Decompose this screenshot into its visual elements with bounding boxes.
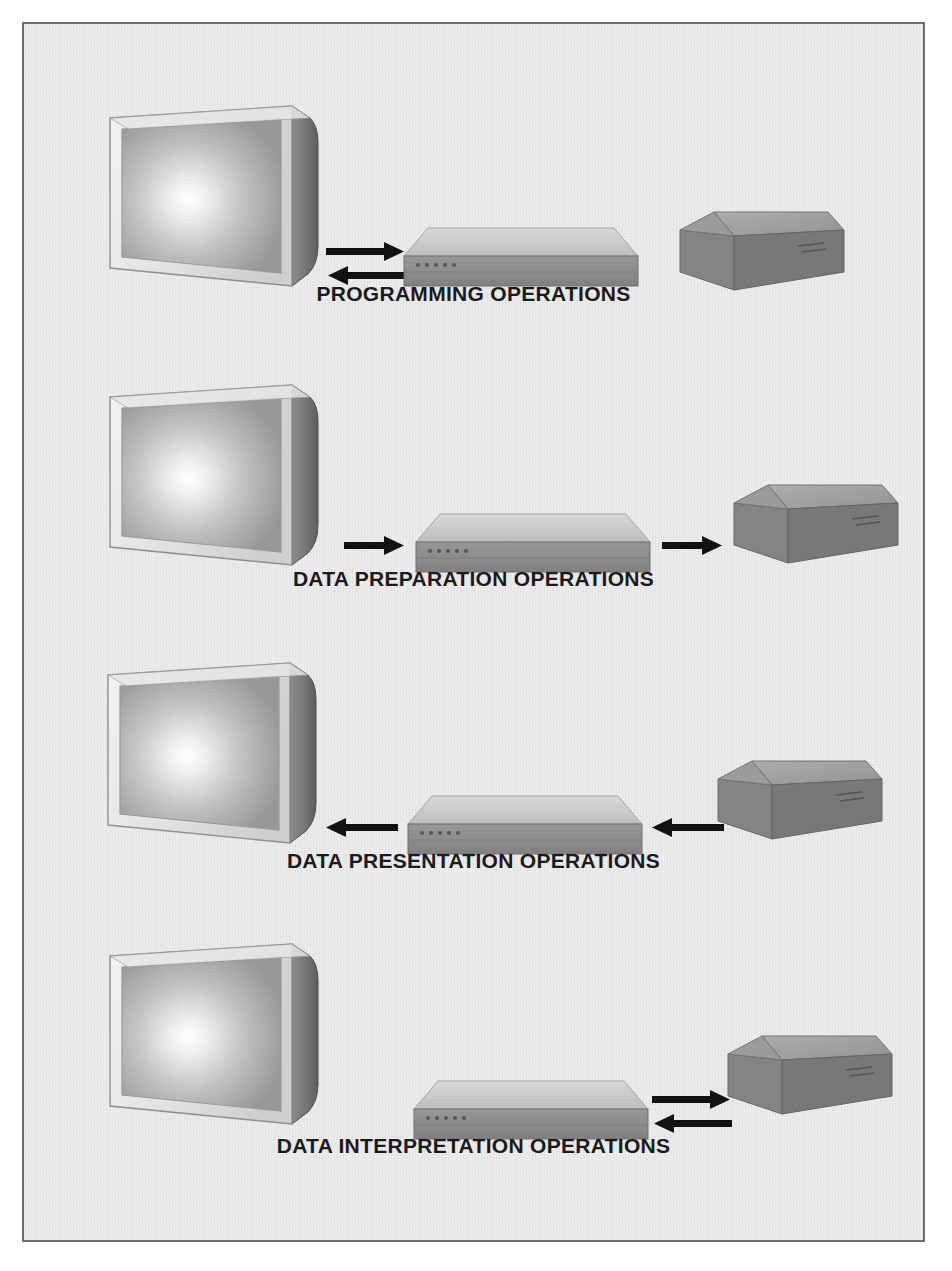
monitor-display bbox=[96, 375, 326, 575]
cpu-unit bbox=[402, 227, 640, 289]
arrow-cpu-to-monitor bbox=[324, 817, 398, 839]
arrow-pair-cpu-disk bbox=[650, 1087, 734, 1139]
arrow-monitor-to-cpu bbox=[344, 535, 406, 557]
monitor-display bbox=[96, 96, 326, 296]
monitor-display bbox=[96, 934, 326, 1134]
cpu-unit bbox=[414, 513, 652, 575]
row-label-data-preparation: DATA PREPARATION OPERATIONS bbox=[24, 567, 923, 591]
arrow-disk-to-cpu bbox=[650, 817, 724, 839]
arrow-cpu-to-disk bbox=[662, 535, 724, 557]
diagram-row-data-presentation: DATA PRESENTATION OPERATIONS bbox=[24, 599, 923, 889]
disk-storage bbox=[730, 479, 902, 579]
row-label-programming: PROGRAMMING OPERATIONS bbox=[24, 282, 923, 306]
operations-diagram-figure: PROGRAMMING OPERATIONS bbox=[22, 22, 925, 1242]
diagram-row-data-interpretation: DATA INTERPRETATION OPERATIONS bbox=[24, 882, 923, 1172]
cpu-unit bbox=[412, 1080, 650, 1142]
row-label-data-interpretation: DATA INTERPRETATION OPERATIONS bbox=[24, 1134, 923, 1158]
monitor-display bbox=[94, 653, 324, 853]
cpu-unit bbox=[406, 795, 644, 857]
row-label-data-presentation: DATA PRESENTATION OPERATIONS bbox=[24, 849, 923, 873]
disk-storage bbox=[714, 755, 886, 855]
diagram-row-data-preparation: DATA PREPARATION OPERATIONS bbox=[24, 317, 923, 607]
diagram-row-programming: PROGRAMMING OPERATIONS bbox=[24, 34, 923, 324]
disk-storage bbox=[724, 1030, 896, 1130]
